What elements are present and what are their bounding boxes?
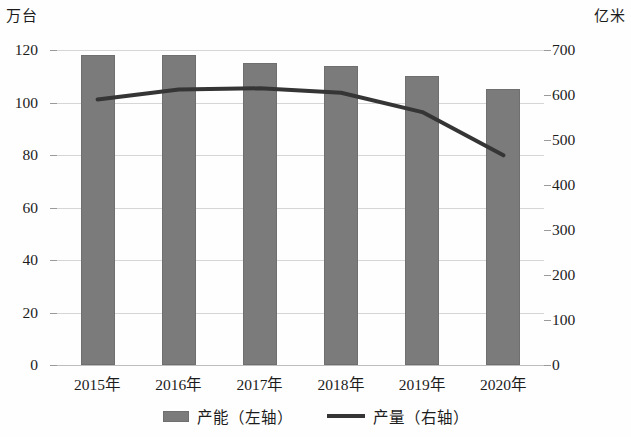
- right-axis-tick-label: 0: [552, 357, 560, 373]
- left-axis-tick-mark: [50, 155, 57, 156]
- bar-2019年: [405, 76, 439, 365]
- bar-2016年: [162, 55, 196, 365]
- line-swatch-icon: [327, 414, 365, 418]
- x-axis-label-2017年: 2017年: [217, 372, 303, 394]
- chart-legend: 产能（左轴） 产量（右轴）: [0, 405, 631, 427]
- line-series-path: [98, 88, 504, 155]
- left-axis-tick-label: 100: [15, 95, 38, 111]
- left-axis-tick-label: 20: [23, 305, 39, 321]
- x-axis-label-2015年: 2015年: [55, 372, 141, 394]
- right-axis-unit-label: 亿米: [594, 4, 625, 25]
- x-axis-label-2018年: 2018年: [298, 372, 384, 394]
- right-axis-tick-label: 100: [552, 312, 575, 328]
- gridline: [57, 155, 544, 156]
- x-axis-label-2019年: 2019年: [379, 372, 465, 394]
- legend-item-output[interactable]: 产量（右轴）: [327, 405, 469, 427]
- x-axis-label-2016年: 2016年: [136, 372, 222, 394]
- gridline: [57, 50, 544, 51]
- gridline: [57, 208, 544, 209]
- plot-area: [57, 50, 544, 365]
- left-axis-tick-mark: [50, 50, 57, 51]
- left-axis-tick-label: 80: [23, 147, 39, 163]
- x-axis-label-2020年: 2020年: [460, 372, 546, 394]
- right-axis-tick-mark: [544, 140, 551, 141]
- right-axis-tick-label: 300: [552, 222, 575, 238]
- left-axis-tick-mark: [50, 313, 57, 314]
- right-axis-tick-mark: [544, 230, 551, 231]
- left-axis-unit-label: 万台: [6, 4, 37, 25]
- bar-2015年: [81, 55, 115, 365]
- left-axis-tick-mark: [50, 365, 57, 366]
- left-axis-tick-mark: [50, 103, 57, 104]
- right-axis-tick-mark: [544, 320, 551, 321]
- bar-2020年: [486, 89, 520, 365]
- left-axis-tick-label: 120: [15, 42, 38, 58]
- legend-label-capacity: 产能（左轴）: [197, 405, 293, 427]
- right-axis-tick-mark: [544, 50, 551, 51]
- legend-label-output: 产量（右轴）: [373, 405, 469, 427]
- bar-2017年: [243, 63, 277, 365]
- right-axis-tick-mark: [544, 365, 551, 366]
- right-axis-tick-label: 500: [552, 132, 575, 148]
- right-axis-tick-label: 600: [552, 87, 575, 103]
- left-axis-tick-mark: [50, 208, 57, 209]
- right-axis-tick-label: 400: [552, 177, 575, 193]
- gridline: [57, 365, 544, 366]
- gridline: [57, 260, 544, 261]
- left-axis-tick-label: 0: [30, 357, 38, 373]
- bar-swatch-icon: [163, 411, 189, 422]
- gridline: [57, 103, 544, 104]
- right-axis-tick-mark: [544, 185, 551, 186]
- gridline: [57, 313, 544, 314]
- right-axis-tick-mark: [544, 95, 551, 96]
- left-axis-tick-mark: [50, 260, 57, 261]
- right-axis-tick-label: 200: [552, 267, 575, 283]
- bar-2018年: [324, 66, 358, 365]
- chart-container: 万台 亿米 020406080100120 010020030040050060…: [0, 0, 631, 437]
- legend-item-capacity[interactable]: 产能（左轴）: [163, 405, 293, 427]
- right-axis-tick-mark: [544, 275, 551, 276]
- left-axis-tick-label: 40: [23, 252, 39, 268]
- left-axis-tick-label: 60: [23, 200, 39, 216]
- right-axis-tick-label: 700: [552, 42, 575, 58]
